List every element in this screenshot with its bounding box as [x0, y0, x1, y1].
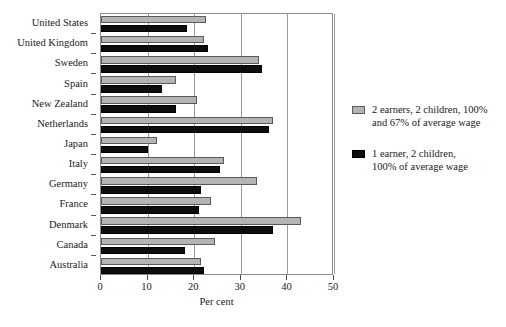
- x-tick: [193, 275, 194, 280]
- bar-one-earner: [101, 65, 262, 73]
- legend-label-line2: 100% of average wage: [372, 161, 468, 172]
- bar-group: [101, 34, 332, 54]
- category-tick: [91, 134, 96, 135]
- bar-two-earners: [101, 197, 211, 205]
- bar-two-earners: [101, 56, 259, 64]
- category-tick: [91, 154, 96, 155]
- x-tick: [240, 275, 241, 280]
- bar-group: [101, 14, 332, 34]
- x-axis-label: Per cent: [100, 296, 333, 307]
- bar-one-earner: [101, 247, 185, 255]
- gridline: [334, 14, 335, 274]
- bar-group: [101, 54, 332, 74]
- legend-swatch-icon-two-earners: [352, 106, 365, 114]
- category-label: Germany: [49, 178, 88, 189]
- category-label: Australia: [50, 259, 89, 270]
- bar-group: [101, 135, 332, 155]
- category-tick: [91, 53, 96, 54]
- bar-one-earner: [101, 85, 162, 93]
- category-label: Denmark: [49, 219, 88, 230]
- category-label: Japan: [64, 138, 88, 149]
- category-label: New Zealand: [32, 98, 88, 109]
- x-tick-label: 20: [188, 281, 199, 292]
- bar-one-earner: [101, 25, 187, 33]
- bar-two-earners: [101, 36, 204, 44]
- category-tick: [91, 33, 96, 34]
- category-label: Sweden: [55, 57, 88, 68]
- bar-two-earners: [101, 76, 176, 84]
- bar-group: [101, 175, 332, 195]
- legend-item-one-earner: 1 earner, 2 children, 100% of average wa…: [352, 147, 502, 173]
- bar-two-earners: [101, 117, 273, 125]
- bar-two-earners: [101, 238, 215, 246]
- bar-group: [101, 195, 332, 215]
- bar-two-earners: [101, 217, 301, 225]
- category-label: Italy: [69, 158, 88, 169]
- category-label: Spain: [64, 78, 88, 89]
- category-label: United States: [32, 17, 88, 28]
- legend-label-line1: 1 earner, 2 children,: [372, 148, 456, 159]
- legend-label-line1: 2 earners, 2 children, 100%: [372, 104, 487, 115]
- category-axis: United StatesUnited KingdomSwedenSpainNe…: [0, 13, 96, 275]
- bar-two-earners: [101, 96, 197, 104]
- category-tick: [91, 174, 96, 175]
- bar-group: [101, 155, 332, 175]
- category-tick: [91, 235, 96, 236]
- x-tick: [333, 275, 334, 280]
- category-label: United Kingdom: [17, 37, 88, 48]
- bar-one-earner: [101, 186, 201, 194]
- bar-one-earner: [101, 226, 273, 234]
- x-tick-label: 0: [97, 281, 102, 292]
- bar-group: [101, 74, 332, 94]
- bar-two-earners: [101, 177, 257, 185]
- x-tick: [100, 275, 101, 280]
- x-tick-label: 50: [328, 281, 339, 292]
- bar-chart: United StatesUnited KingdomSwedenSpainNe…: [0, 0, 506, 327]
- category-tick: [91, 73, 96, 74]
- x-tick: [147, 275, 148, 280]
- plot-area: [100, 13, 333, 275]
- legend-label-line2: and 67% of average wage: [372, 117, 480, 128]
- category-label: France: [59, 198, 88, 209]
- bar-two-earners: [101, 157, 224, 165]
- chart-legend: 2 earners, 2 children, 100% and 67% of a…: [352, 103, 502, 191]
- legend-swatch-icon-one-earner: [352, 150, 365, 158]
- category-tick: [91, 194, 96, 195]
- bar-group: [101, 256, 332, 276]
- legend-item-two-earners: 2 earners, 2 children, 100% and 67% of a…: [352, 103, 502, 129]
- category-tick: [91, 94, 96, 95]
- bar-rows: [101, 14, 332, 274]
- bar-one-earner: [101, 206, 199, 214]
- category-tick: [91, 255, 96, 256]
- bar-group: [101, 236, 332, 256]
- bar-group: [101, 115, 332, 135]
- category-tick: [91, 114, 96, 115]
- bar-one-earner: [101, 105, 176, 113]
- bar-one-earner: [101, 45, 208, 53]
- category-tick: [91, 215, 96, 216]
- category-label: Canada: [57, 239, 89, 250]
- bar-two-earners: [101, 137, 157, 145]
- category-label: Netherlands: [37, 118, 88, 129]
- bar-one-earner: [101, 146, 148, 154]
- legend-label-one-earner: 1 earner, 2 children, 100% of average wa…: [372, 147, 468, 173]
- bar-one-earner: [101, 126, 269, 134]
- x-tick-label: 30: [235, 281, 246, 292]
- bar-two-earners: [101, 258, 201, 266]
- x-tick: [286, 275, 287, 280]
- x-tick-label: 10: [141, 281, 152, 292]
- x-tick-label: 40: [281, 281, 292, 292]
- bar-group: [101, 216, 332, 236]
- legend-label-two-earners: 2 earners, 2 children, 100% and 67% of a…: [372, 103, 487, 129]
- bar-one-earner: [101, 267, 204, 275]
- bar-group: [101, 95, 332, 115]
- bar-two-earners: [101, 16, 206, 24]
- bar-one-earner: [101, 166, 220, 174]
